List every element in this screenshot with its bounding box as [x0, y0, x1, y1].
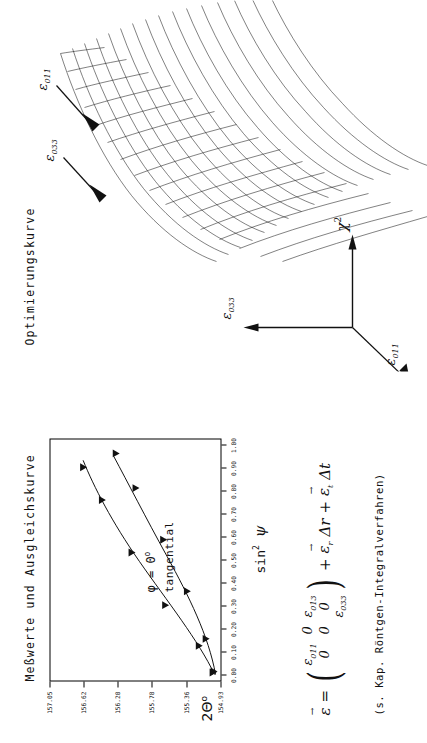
axis-label-eps011: ε011 — [382, 343, 400, 365]
y-tick-label: 156.62 — [79, 691, 86, 737]
delta-symbol: Δ — [315, 525, 333, 536]
matrix-rows: ε011 0 ε013 0 0 0 ε033 — [300, 592, 348, 668]
delta-var: r — [315, 518, 333, 525]
x-axis-label: sin2 ψ — [250, 525, 268, 573]
equation-lhs-symbol: ε — [315, 707, 333, 715]
mesh-surface — [60, 0, 427, 261]
x-tick-mark — [221, 628, 226, 629]
term-tangential-symbol: ε — [314, 487, 332, 495]
annotation-phi: φ = 0o — [142, 551, 157, 592]
y-tick-label: 155.36 — [182, 691, 189, 737]
axis-label-chi-symbol: χ — [332, 222, 350, 231]
y-tick-label: 156.20 — [113, 691, 120, 737]
x-tick-mark — [221, 605, 226, 606]
y-tick-label: 154.93 — [216, 691, 223, 737]
panel-measurement-plot: Meßwerte und Ausgleichskurve — [0, 371, 427, 743]
figure-caption: (s. Kap. Röntgen-Integralverfahren) — [372, 473, 384, 715]
y-tick-mark — [186, 681, 187, 687]
delta-radial: Δr — [315, 518, 333, 536]
term-radial-symbol: ε — [314, 545, 332, 553]
axis-label-eps011-sub: 011 — [391, 343, 400, 358]
coordinate-axes-3d — [250, 241, 404, 371]
annotation-phi-degree: o — [142, 551, 151, 556]
matrix-cell — [331, 641, 348, 667]
x-axis-label-exponent: 2 — [252, 545, 261, 550]
matrix-cell — [331, 626, 348, 634]
y-tick-mark — [220, 681, 221, 687]
y-axis-label: 2Θo — [198, 696, 215, 721]
y-tick-mark — [117, 681, 118, 687]
vector-arrow-icon: → — [307, 707, 316, 715]
x-tick-mark — [221, 674, 226, 675]
surface-arrowheads — [82, 113, 106, 202]
surface-arrow-label-eps011-symbol: ε — [34, 83, 49, 90]
matrix-cell: 0 — [317, 593, 331, 619]
matrix-cell: 0 — [317, 626, 331, 634]
axis-label-eps033-sub: 033 — [227, 297, 236, 312]
equation-lhs: → ε — [315, 707, 333, 715]
figure-page: Meßwerte und Ausgleichskurve — [0, 0, 427, 743]
y-tick-mark — [83, 681, 84, 687]
matrix-cell-symbol: ε — [300, 610, 314, 617]
axis-label-eps033-symbol: ε — [218, 312, 233, 319]
equation-term-radial: → εr — [314, 541, 334, 553]
axis-label-chi-squared: χ2 — [332, 216, 350, 231]
y-tick-label: 155.78 — [147, 691, 154, 737]
matrix-paren-left: ( — [307, 671, 341, 682]
term-tangential-sub: t — [325, 484, 334, 487]
equation-equals: = — [315, 689, 333, 702]
x-tick-mark — [221, 467, 226, 468]
surface-arrow-label-eps011: ε011 — [34, 68, 52, 90]
annotation-phi-text: φ = 0 — [143, 556, 157, 592]
matrix-cell: 0 — [300, 626, 317, 634]
delta-var: t — [315, 462, 333, 468]
strain-tensor-equation: → ε = ( ε011 0 ε013 0 0 — [300, 462, 348, 715]
delta-symbol: Δ — [315, 468, 333, 479]
delta-tangential: Δt — [315, 462, 333, 479]
matrix-row: ε011 0 ε013 — [300, 593, 317, 667]
matrix-cell-sub: 033 — [339, 595, 347, 610]
axis-label-eps011-symbol: ε — [382, 358, 397, 365]
y-axis-label-symbol: 2Θ — [199, 701, 215, 721]
matrix-cell: 0 — [317, 641, 331, 667]
matrix-cell-symbol: ε — [300, 658, 314, 665]
matrix-row: ε033 — [331, 593, 348, 667]
surface-arrow-label-eps033-symbol: ε — [41, 154, 56, 161]
x-tick-mark — [221, 559, 226, 560]
surface-arrow-label-eps033-sub: 033 — [50, 139, 59, 154]
matrix-cell: ε033 — [331, 593, 348, 619]
x-axis-label-base: sin — [252, 550, 267, 573]
vector-arrow-icon: → — [306, 543, 315, 551]
y-tick-mark — [151, 681, 152, 687]
matrix-paren-right: ) — [307, 578, 341, 589]
x-axis-label-symbol: ψ — [250, 525, 268, 537]
rotated-figure-canvas: Meßwerte und Ausgleichskurve — [0, 0, 427, 743]
matrix-cell: ε011 — [300, 641, 317, 667]
equation-matrix: ( ε011 0 ε013 0 0 0 — [300, 576, 348, 685]
x-tick-mark — [221, 651, 226, 652]
x-tick-mark — [221, 444, 226, 445]
annotation-direction: tangential — [162, 521, 175, 592]
x-tick-mark — [221, 582, 226, 583]
surface-arrow-label-eps033: ε033 — [41, 139, 59, 161]
y-tick-mark — [49, 681, 50, 687]
plot-frame: φ = 0o tangential — [49, 438, 221, 681]
x-tick-mark — [221, 490, 226, 491]
x-tick-mark — [221, 513, 226, 514]
plot-drawing — [50, 439, 220, 680]
axis-label-chi-exponent: 2 — [332, 216, 342, 222]
equation-plus-1: + — [315, 558, 333, 571]
term-radial-sub: r — [325, 541, 334, 545]
equation-term-tangential: → εt — [314, 484, 334, 495]
matrix-cell-symbol: ε — [331, 610, 345, 617]
panel-optimisation-surface: Optimierungskurve — [0, 0, 427, 371]
left-panel-title: Meßwerte und Ausgleichskurve — [22, 454, 36, 681]
axis-label-eps033: ε033 — [218, 297, 236, 319]
vector-arrow-icon: → — [306, 486, 315, 494]
matrix-cell: ε013 — [300, 593, 317, 619]
x-tick-label: 1.00 — [229, 430, 236, 460]
surface-arrow-leaders — [56, 85, 95, 192]
matrix-row: 0 0 0 — [317, 593, 331, 667]
surface-drawing — [0, 0, 427, 371]
y-axis-label-unit: o — [198, 696, 208, 702]
